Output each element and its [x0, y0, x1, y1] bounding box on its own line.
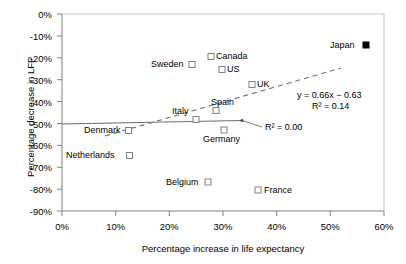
- y-axis-ticks: [57, 14, 62, 211]
- point-label-denmark: Denmark: [84, 126, 121, 135]
- point-label-spain: Spain: [211, 98, 234, 107]
- x-tick-label-10: 10%: [98, 222, 134, 232]
- x-tick-label-30: 30%: [205, 222, 241, 232]
- marker-france: [255, 187, 261, 193]
- scatter-chart-figure: 0% -10% -20% -30% -40% -50% -60% -70% -8…: [0, 0, 406, 264]
- marker-uk: [249, 82, 255, 88]
- marker-us: [219, 67, 225, 73]
- point-label-japan: Japan: [330, 41, 355, 50]
- point-label-netherlands: Netherlands: [66, 151, 115, 160]
- y-tick-label-0: 0%: [18, 10, 52, 20]
- point-label-us: US: [227, 65, 240, 74]
- marker-netherlands: [127, 153, 133, 159]
- x-axis-ticks: [62, 211, 384, 216]
- y-tick-label-90: -90%: [18, 207, 52, 217]
- x-tick-label-0: 0%: [44, 222, 80, 232]
- x-tick-label-50: 50%: [312, 222, 348, 232]
- marker-belgium: [205, 179, 211, 185]
- marker-japan: [363, 42, 369, 48]
- point-label-sweden: Sweden: [151, 60, 184, 69]
- marker-sweden: [189, 62, 195, 68]
- marker-denmark: [126, 128, 132, 134]
- marker-germany: [221, 127, 227, 133]
- x-tick-label-60: 60%: [366, 222, 402, 232]
- x-axis-title: Percentage increase in life expectancy: [62, 244, 384, 254]
- point-label-germany: Germany: [203, 135, 240, 144]
- point-label-italy: Italy: [172, 107, 189, 116]
- point-label-uk: UK: [257, 80, 270, 89]
- solid-r2-leader: [242, 121, 262, 128]
- marker-canada: [208, 54, 214, 60]
- dashed-equation-line1: y = 0.66x − 0.63: [297, 90, 362, 101]
- point-label-canada: Canada: [216, 52, 248, 61]
- marker-italy: [193, 117, 199, 123]
- marker-spain: [213, 108, 219, 114]
- x-tick-label-20: 20%: [151, 222, 187, 232]
- x-tick-label-40: 40%: [259, 222, 295, 232]
- trendline-solid: [62, 121, 242, 125]
- y-axis-title: Percentage decrease in LFP: [26, 37, 36, 197]
- solid-r-squared-label: R² = 0.00: [265, 122, 302, 133]
- dashed-equation-line2: R² = 0.14: [312, 101, 349, 112]
- point-label-belgium: Belgium: [166, 178, 199, 187]
- point-label-france: France: [264, 186, 292, 195]
